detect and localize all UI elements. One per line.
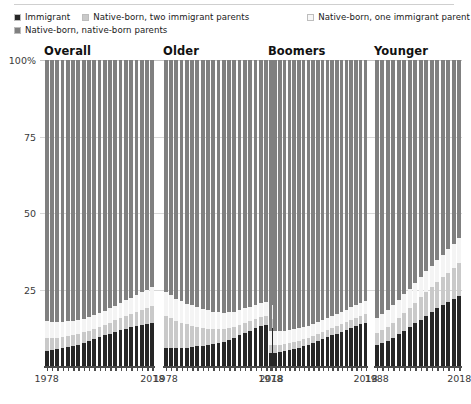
x-tick-mark: [454, 367, 456, 371]
bar-segment: [321, 320, 324, 332]
bar-segment: [345, 310, 348, 323]
bar-segment: [92, 60, 96, 315]
bar-segment: [259, 60, 263, 303]
bar-segment: [164, 316, 168, 348]
legend-item-native-born-parents[interactable]: Native-born, native-born parents: [14, 25, 167, 36]
bar-segment: [50, 322, 54, 338]
bar-segment: [316, 334, 319, 341]
bar-segment: [278, 352, 281, 366]
bar-segment: [211, 312, 215, 330]
bar-segment: [71, 346, 75, 366]
bar-segment: [66, 60, 70, 321]
bar-segment: [169, 295, 173, 318]
bar-segment: [349, 60, 352, 307]
x-tick-mark: [270, 367, 272, 371]
legend-item-one-immigrant-parent[interactable]: Native-born, one immigrant parent: [307, 12, 470, 23]
bar-segment: [164, 348, 168, 366]
bar-segment: [345, 330, 348, 366]
bar-segment: [254, 305, 258, 319]
legend-item-immigrant[interactable]: Immigrant: [14, 12, 70, 23]
bar-segment: [108, 323, 112, 334]
x-tick-mark: [415, 367, 417, 371]
bar-segment: [206, 329, 210, 345]
x-tick-mark: [393, 367, 395, 371]
bar-segment: [66, 321, 70, 336]
bar-segment: [76, 345, 80, 366]
bar-segment: [227, 340, 231, 366]
bar-segment: [269, 60, 272, 331]
bar-group: [374, 60, 462, 366]
bar-segment: [103, 60, 107, 311]
x-tick-mark: [275, 367, 277, 371]
x-tick-mark: [285, 367, 287, 371]
bar-segment: [297, 60, 300, 328]
bar-segment: [391, 323, 395, 338]
bar-segment: [302, 60, 305, 327]
bar-segment: [55, 349, 59, 366]
bar-segment: [297, 348, 300, 366]
bar-segment: [307, 326, 310, 338]
x-tick-mark: [399, 367, 401, 371]
bar-segment: [71, 335, 75, 346]
bar-segment: [124, 329, 128, 366]
bar-segment: [391, 60, 395, 305]
panel-title-boomers: Boomers: [268, 44, 326, 58]
bar-segment: [174, 348, 178, 366]
bar-segment: [446, 273, 450, 303]
bar-segment: [307, 345, 310, 366]
bar-segment: [103, 325, 107, 336]
bar-segment: [364, 301, 367, 314]
bar-segment: [326, 60, 329, 318]
bar-segment: [292, 329, 295, 342]
bar-segment: [345, 322, 348, 330]
bar-segment: [87, 331, 91, 341]
bar[interactable]: [150, 60, 155, 366]
bar-segment: [82, 343, 86, 366]
x-tick-mark: [131, 367, 133, 371]
bar-segment: [185, 324, 189, 347]
bar-segment: [140, 292, 144, 310]
x-tick-mark: [203, 367, 205, 371]
bar-segment: [452, 268, 456, 299]
bar-segment: [430, 266, 434, 287]
bar-segment: [435, 308, 439, 366]
bar-segment: [386, 60, 390, 310]
bar-segment: [419, 297, 423, 319]
bar-segment: [61, 60, 65, 322]
legend-item-two-immigrant-parents[interactable]: Native-born, two immigrant parents: [82, 12, 249, 23]
x-tick-mark: [404, 367, 406, 371]
bar-segment: [98, 313, 102, 327]
bar-segment: [113, 320, 117, 331]
x-tick-mark: [166, 367, 168, 371]
bar-segment: [150, 60, 154, 287]
bar[interactable]: [363, 60, 368, 366]
bar-segment: [273, 331, 276, 345]
x-tick-mark: [426, 367, 428, 371]
bar-segment: [211, 60, 215, 312]
bar-segment: [61, 348, 65, 366]
bar-segment: [248, 331, 252, 366]
panel-younger: [374, 60, 462, 366]
bar-segment: [45, 351, 49, 366]
bar-group: [163, 60, 274, 366]
bar-segment: [457, 60, 461, 238]
bar-segment: [211, 329, 215, 344]
bar[interactable]: [457, 60, 463, 366]
bar-segment: [273, 353, 276, 366]
bar-segment: [50, 338, 54, 350]
bar-segment: [316, 341, 319, 366]
bar-segment: [76, 320, 80, 334]
bar-segment: [349, 320, 352, 328]
bar-segment: [435, 60, 439, 260]
bar-segment: [201, 309, 205, 328]
bar-segment: [201, 328, 205, 346]
x-tick-mark: [213, 367, 215, 371]
bar-segment: [441, 255, 445, 278]
bar-segment: [124, 300, 128, 316]
bar-segment: [452, 60, 456, 244]
x-tick-mark: [308, 367, 310, 371]
bar-segment: [103, 335, 107, 366]
bar-segment: [269, 345, 272, 353]
bar-segment: [259, 326, 263, 366]
bar-segment: [232, 312, 236, 327]
